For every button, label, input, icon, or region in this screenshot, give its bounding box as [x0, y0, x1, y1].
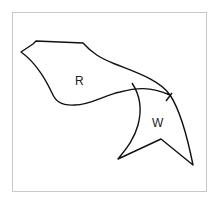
region-w-label: W: [152, 116, 164, 130]
region-r-label: R: [75, 74, 84, 88]
frame: [13, 13, 207, 192]
diagram-canvas: R W: [0, 0, 219, 199]
